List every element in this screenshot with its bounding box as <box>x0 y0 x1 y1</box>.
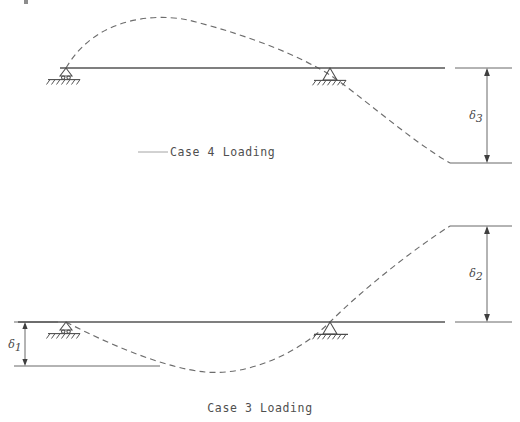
scan-artifact <box>24 0 28 4</box>
arrow-head-down <box>22 359 27 366</box>
deflection-curve-case3 <box>66 226 450 372</box>
caption-case3: Case 3 Loading <box>207 401 312 415</box>
ground-hatching <box>47 334 81 339</box>
arrow-head-down <box>484 155 490 163</box>
panel-case3: δ1 δ2 Case 3 Loading <box>8 226 512 415</box>
caption-case4: Case 4 Loading <box>170 145 275 159</box>
dimension-delta-1: δ1 <box>8 322 160 366</box>
dimension-delta-3: δ3 <box>450 68 512 163</box>
arrow-head-up <box>22 322 27 329</box>
arrow-head-up <box>484 68 490 76</box>
beam-diagram-canvas: δ3 Case 4 Loading <box>0 0 520 422</box>
left-roller-support-case4 <box>47 68 81 85</box>
ground-hatching <box>47 80 81 85</box>
interior-pin-support-case3 <box>313 322 349 339</box>
caption-group-case4: Case 4 Loading <box>138 145 275 159</box>
dimension-delta-2: δ2 <box>450 226 512 322</box>
panel-case4: δ3 Case 4 Loading <box>47 17 513 163</box>
left-pin-support-case3 <box>47 322 81 339</box>
arrow-head-up <box>484 226 490 234</box>
delta-2-label: δ2 <box>469 267 483 283</box>
ground-hatching <box>313 334 347 339</box>
delta-3-label: δ3 <box>469 109 483 125</box>
figure-root: δ3 Case 4 Loading <box>0 0 520 422</box>
deflection-curve-case4 <box>66 17 450 163</box>
arrow-head-down <box>484 314 490 322</box>
delta-1-label: δ1 <box>8 338 22 354</box>
